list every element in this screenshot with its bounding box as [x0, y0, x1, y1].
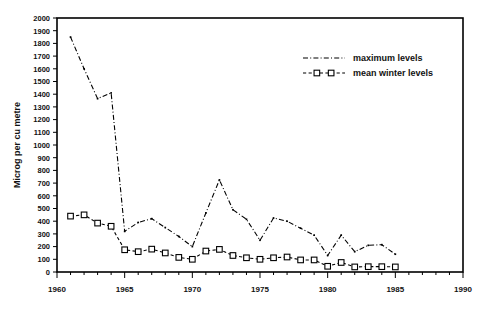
legend-label-0: maximum levels [353, 53, 423, 63]
data-point-marker [284, 254, 290, 260]
y-tick-label-1200: 1200 [33, 115, 50, 124]
data-point-dot [70, 36, 72, 38]
data-point-dot [83, 68, 85, 70]
data-point-marker [122, 247, 128, 253]
data-point-dot [219, 179, 221, 181]
data-point-marker [230, 253, 236, 259]
data-point-marker [257, 257, 263, 263]
chart-figure: 0100200300400500600700800900100011001200… [0, 0, 485, 319]
legend-marker [314, 70, 320, 76]
x-tick-label-1965: 1965 [116, 285, 134, 294]
y-tick-label-1900: 1900 [33, 27, 50, 36]
data-point-dot [178, 236, 180, 238]
data-point-dot [381, 244, 383, 246]
data-point-marker [244, 255, 250, 261]
data-point-dot [340, 234, 342, 236]
x-axis-tick-labels: 1960196519701975198019851990 [48, 285, 472, 294]
y-tick-label-1500: 1500 [33, 77, 50, 86]
y-axis-tick-labels: 0100200300400500600700800900100011001200… [33, 14, 50, 277]
data-point-marker [271, 255, 277, 261]
series-line-maximum-levels [71, 37, 396, 255]
y-tick-label-500: 500 [37, 204, 50, 213]
y-tick-label-1600: 1600 [33, 65, 50, 74]
data-point-marker [149, 246, 155, 252]
y-tick-label-400: 400 [37, 217, 50, 226]
data-point-marker [190, 257, 196, 263]
y-tick-label-0: 0 [46, 268, 50, 277]
chart-legend: maximum levelsmean winter levels [303, 53, 433, 78]
data-point-marker [298, 257, 304, 263]
data-point-dot [191, 246, 193, 248]
data-point-dot [151, 218, 153, 220]
data-point-marker [203, 248, 209, 254]
legend-label-1: mean winter levels [353, 68, 433, 78]
y-tick-label-1000: 1000 [33, 141, 50, 150]
data-point-marker [352, 264, 358, 270]
data-point-marker [108, 223, 114, 229]
legend-marker [328, 70, 334, 76]
line-chart: 0100200300400500600700800900100011001200… [0, 0, 485, 319]
data-point-marker [393, 264, 399, 270]
data-point-dot [394, 253, 396, 255]
data-point-marker [81, 212, 87, 218]
y-tick-label-800: 800 [37, 166, 50, 175]
data-point-dot [327, 255, 329, 257]
data-point-dot [205, 212, 207, 214]
x-tick-label-1975: 1975 [251, 285, 269, 294]
data-point-marker [311, 257, 317, 263]
y-tick-label-200: 200 [37, 242, 50, 251]
y-tick-label-1700: 1700 [33, 52, 50, 61]
y-tick-label-1300: 1300 [33, 103, 50, 112]
y-tick-label-700: 700 [37, 179, 50, 188]
y-tick-label-1100: 1100 [34, 128, 50, 137]
x-tick-label-1970: 1970 [183, 285, 201, 294]
y-tick-label-2000: 2000 [33, 14, 50, 23]
data-point-marker [325, 263, 331, 269]
x-tick-label-1980: 1980 [319, 285, 337, 294]
data-point-dot [367, 244, 369, 246]
data-point-marker [176, 255, 182, 261]
series-layer [68, 36, 398, 270]
data-point-dot [286, 220, 288, 222]
data-point-dot [273, 217, 275, 219]
y-tick-label-600: 600 [37, 192, 50, 201]
data-point-dot [259, 239, 261, 241]
data-point-dot [300, 227, 302, 229]
data-point-marker [68, 213, 74, 219]
y-tick-label-300: 300 [37, 230, 50, 239]
data-point-dot [137, 222, 139, 224]
x-axis-ticks [57, 272, 463, 278]
data-point-marker [365, 264, 371, 270]
data-point-dot [124, 231, 126, 233]
data-point-dot [246, 218, 248, 220]
y-tick-label-100: 100 [37, 255, 50, 264]
data-point-marker [95, 220, 101, 226]
y-tick-label-900: 900 [37, 154, 50, 163]
series-line-mean-winter-levels [71, 215, 396, 267]
y-axis-ticks [53, 18, 57, 272]
x-tick-label-1990: 1990 [454, 285, 472, 294]
y-tick-label-1800: 1800 [33, 39, 50, 48]
x-tick-label-1985: 1985 [386, 285, 404, 294]
data-point-marker [135, 249, 141, 255]
y-axis-title: Microg per cu metre [12, 102, 22, 188]
x-tick-label-1960: 1960 [48, 285, 66, 294]
data-point-dot [97, 98, 99, 100]
data-point-dot [110, 92, 112, 94]
data-point-dot [354, 251, 356, 253]
y-tick-label-1400: 1400 [33, 90, 50, 99]
data-point-marker [162, 250, 168, 256]
data-point-marker [379, 264, 385, 270]
data-point-dot [313, 234, 315, 236]
data-point-dot [164, 227, 166, 229]
data-point-dot [232, 209, 234, 211]
data-point-marker [217, 247, 223, 253]
data-point-marker [338, 260, 344, 266]
